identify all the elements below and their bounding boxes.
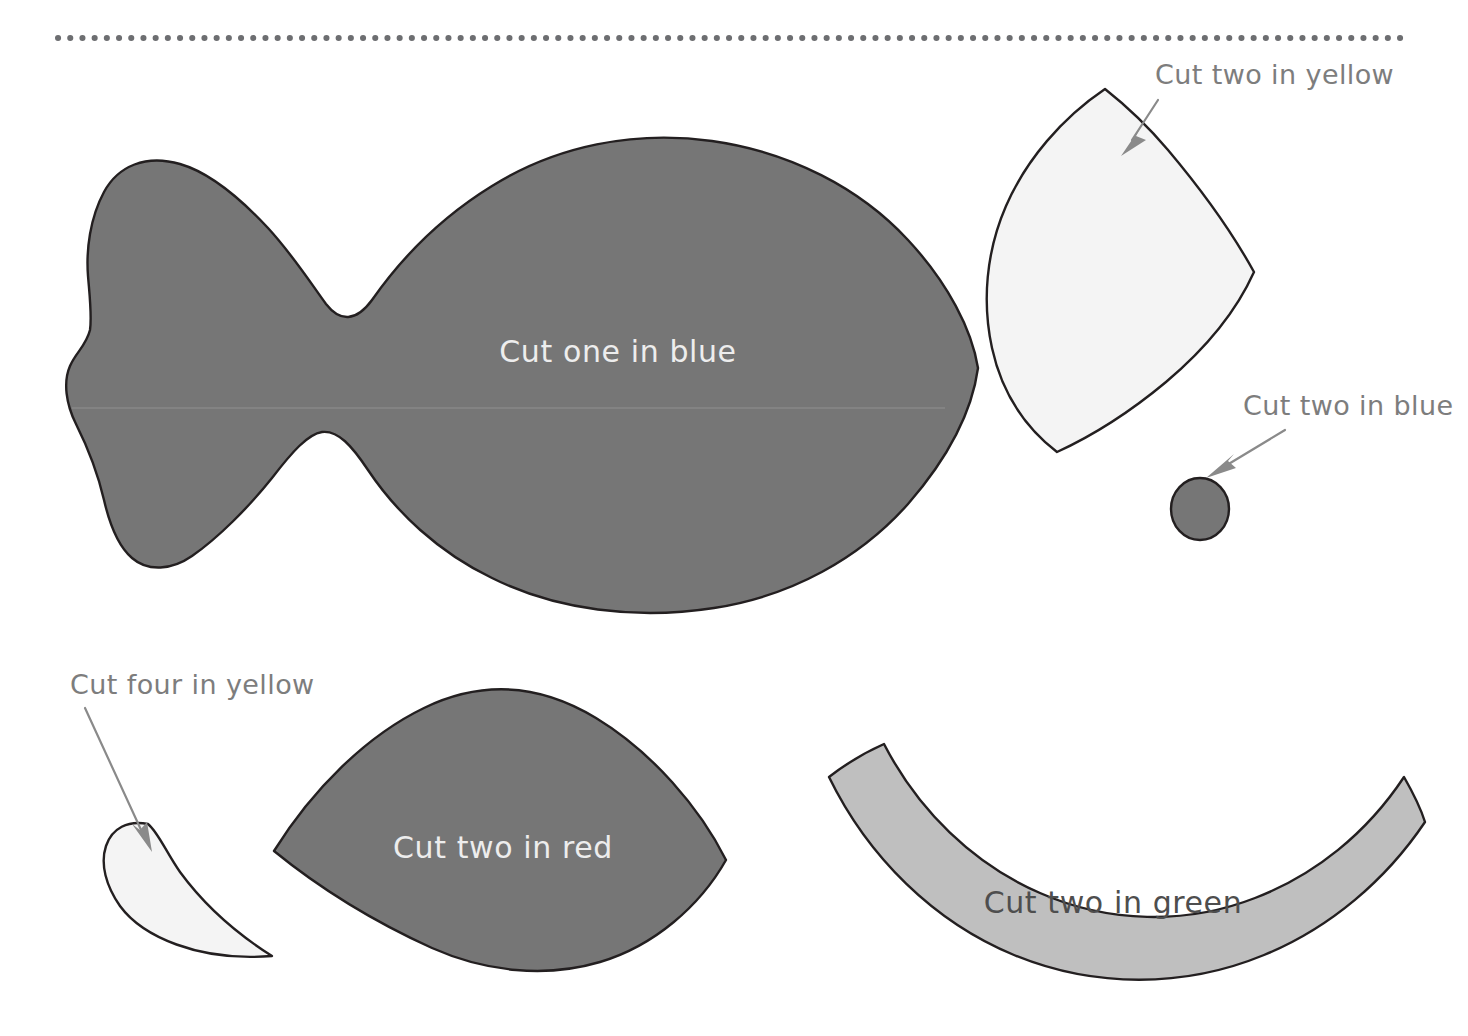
teardrop-label: Cut four in yellow bbox=[70, 669, 315, 700]
eye-dot-outline bbox=[1171, 478, 1229, 540]
fish-body-label: Cut one in blue bbox=[499, 334, 736, 369]
dorsal-fin-piece[interactable] bbox=[987, 89, 1254, 452]
callout-eye-dot: Cut two in blue bbox=[1206, 390, 1453, 478]
teardrop-piece[interactable] bbox=[104, 823, 272, 957]
fish-body-piece[interactable]: Cut one in blue bbox=[66, 138, 978, 613]
callout-teardrop-line bbox=[85, 708, 142, 832]
callout-eye-dot-arrowhead bbox=[1206, 454, 1236, 478]
pattern-sheet-canvas: Cut one in blue Cut two in yellow Cut tw… bbox=[0, 0, 1468, 1036]
curved-band-outline bbox=[829, 744, 1425, 980]
fish-body-outline bbox=[66, 138, 978, 613]
lens-piece[interactable]: Cut two in red bbox=[274, 689, 726, 970]
pattern-sheet-page: Cut one in blue Cut two in yellow Cut tw… bbox=[0, 0, 1468, 1036]
curved-band-piece[interactable]: Cut two in green bbox=[829, 744, 1425, 980]
callout-teardrop: Cut four in yellow bbox=[70, 669, 315, 852]
teardrop-outline bbox=[104, 823, 272, 957]
curved-band-label: Cut two in green bbox=[984, 885, 1243, 920]
eye-dot-label: Cut two in blue bbox=[1243, 390, 1453, 421]
dorsal-fin-outline bbox=[987, 89, 1254, 452]
dorsal-fin-label: Cut two in yellow bbox=[1155, 59, 1394, 90]
eye-dot-piece[interactable] bbox=[1171, 478, 1229, 540]
lens-label: Cut two in red bbox=[393, 830, 613, 865]
callout-eye-dot-line bbox=[1222, 430, 1285, 468]
